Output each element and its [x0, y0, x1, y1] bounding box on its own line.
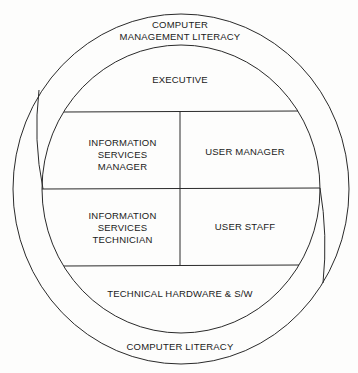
user-manager-label: USER MANAGER [185, 146, 305, 158]
information-services-manager-label: INFORMATION SERVICES MANAGER [70, 137, 175, 173]
divider-bottom [64, 265, 299, 266]
left-crossing-curve [37, 90, 43, 189]
diagram-graphic [0, 0, 358, 373]
information-services-technician-label: INFORMATION SERVICES TECHNICIAN [70, 210, 175, 246]
divider-middle [42, 188, 320, 189]
computer-literacy-label: COMPUTER LITERACY [110, 341, 250, 353]
divider-top [64, 111, 298, 112]
computer-management-literacy-label: COMPUTER MANAGEMENT LITERACY [100, 19, 260, 43]
user-staff-label: USER STAFF [185, 221, 305, 233]
executive-label: EXECUTIVE [120, 74, 240, 86]
technical-hardware-software-label: TECHNICAL HARDWARE & S/W [90, 288, 270, 300]
right-crossing-curve [320, 188, 325, 283]
